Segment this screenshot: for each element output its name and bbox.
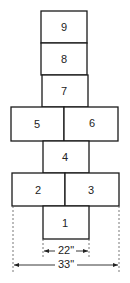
square-label-1: 1 <box>62 217 68 229</box>
square-label-4: 4 <box>62 151 68 163</box>
square-6: 6 <box>64 107 118 141</box>
arrowhead-right-icon <box>83 249 88 253</box>
square-8: 8 <box>41 43 87 75</box>
inner-width-label: 22" <box>58 244 74 256</box>
square-1: 1 <box>43 206 89 239</box>
square-label-5: 5 <box>34 118 40 130</box>
outer-width-label: 33" <box>58 258 74 270</box>
square-label-9: 9 <box>61 21 67 33</box>
square-9: 9 <box>41 11 87 43</box>
dimension-inner-width: 22" <box>44 244 88 256</box>
arrowhead-left-icon <box>44 249 49 253</box>
square-label-2: 2 <box>35 184 41 196</box>
square-4: 4 <box>43 141 89 173</box>
square-label-7: 7 <box>61 85 67 97</box>
square-label-6: 6 <box>89 117 95 129</box>
square-3: 3 <box>65 173 119 206</box>
hopscotch-diagram: 9 8 7 5 6 4 2 3 1 <box>0 0 130 283</box>
dimension-outer-width: 33" <box>14 258 118 270</box>
arrowhead-left-icon <box>14 263 19 267</box>
square-label-8: 8 <box>61 53 67 65</box>
square-7: 7 <box>42 75 88 107</box>
square-5: 5 <box>11 107 64 141</box>
arrowhead-right-icon <box>113 263 118 267</box>
square-label-3: 3 <box>88 184 94 196</box>
square-2: 2 <box>12 173 65 206</box>
